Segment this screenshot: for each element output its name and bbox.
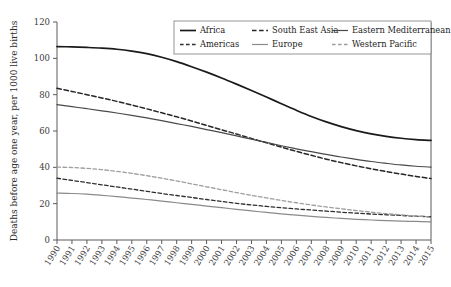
legend-label-eastern-mediterranean: Eastern Mediterranean	[352, 25, 451, 35]
series-line-africa	[57, 47, 431, 141]
x-axis-ticks: 1990199119921993199419951996199719981999…	[42, 240, 436, 267]
chart-figure: Deaths before age one year, per 1000 liv…	[0, 0, 451, 287]
series-line-south-east-asia	[57, 88, 431, 178]
legend-label-western-pacific: Western Pacific	[352, 39, 417, 49]
chart-legend: AfricaSouth East AsiaEastern Mediterrane…	[174, 21, 451, 54]
y-tick-label: 60	[39, 126, 50, 136]
y-tick-label: 100	[34, 53, 50, 63]
axis-frame	[57, 22, 431, 240]
line-chart: Deaths before age one year, per 1000 liv…	[0, 0, 451, 287]
y-axis-ticks: 020406080100120	[34, 17, 57, 245]
y-axis-title: Deaths before age one year, per 1000 liv…	[9, 20, 19, 241]
y-tick-label: 0	[45, 235, 50, 245]
y-axis-title-label: Deaths before age one year, per 1000 liv…	[9, 20, 19, 241]
legend-label-europe: Europe	[272, 39, 303, 49]
y-tick-label: 20	[39, 199, 50, 209]
series-lines	[57, 47, 431, 222]
legend-label-south-east-asia: South East Asia	[272, 25, 338, 35]
y-tick-label: 40	[39, 162, 50, 172]
y-tick-label: 120	[34, 17, 50, 27]
y-tick-label: 80	[39, 90, 50, 100]
series-line-americas	[57, 178, 431, 217]
legend-label-africa: Africa	[199, 25, 225, 35]
legend-label-americas: Americas	[199, 39, 239, 49]
x-tick-label: 2015	[416, 244, 436, 268]
series-line-europe	[57, 193, 431, 222]
